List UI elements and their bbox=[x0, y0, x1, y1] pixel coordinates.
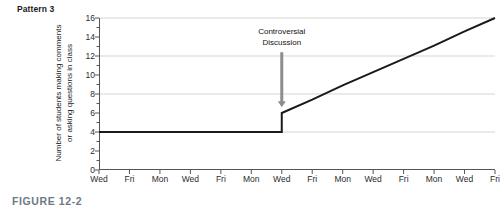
y-axis-tick-10: 10 bbox=[75, 71, 95, 80]
annotation-label: Controversial Discussion bbox=[222, 27, 342, 48]
figure-caption: FIGURE 12-2 bbox=[12, 195, 82, 207]
y-axis-tick-8: 8 bbox=[75, 90, 95, 99]
figure-container: Pattern 3 Number of students making comm… bbox=[0, 0, 503, 214]
annotation-line-2: Discussion bbox=[222, 38, 342, 49]
y-axis-label-text: Number of students making comments or as… bbox=[54, 25, 75, 162]
y-axis-tick-4: 4 bbox=[75, 128, 95, 137]
y-axis-label-line-1: Number of students making comments bbox=[54, 25, 65, 162]
y-axis-tick-2: 2 bbox=[75, 147, 95, 156]
y-axis-label-line-2: or asking questions in class bbox=[64, 25, 75, 162]
y-axis-tick-14: 14 bbox=[75, 33, 95, 42]
y-axis-tick-16: 16 bbox=[75, 14, 95, 23]
annotation-line-1: Controversial bbox=[222, 27, 342, 38]
y-axis-tick-12: 12 bbox=[75, 52, 95, 61]
x-axis-tick-labels: WedFriMonWedFriMonWedFriMonWedFriMonWedF… bbox=[99, 174, 495, 188]
y-axis-tick-marks bbox=[95, 18, 99, 170]
down-arrow-icon bbox=[278, 52, 286, 107]
y-axis-tick-labels: 1614121086420 bbox=[74, 18, 95, 170]
page-title: Pattern 3 bbox=[17, 4, 54, 14]
x-axis-tick-13-fri: Fri bbox=[475, 174, 503, 185]
y-axis-tick-6: 6 bbox=[75, 109, 95, 118]
